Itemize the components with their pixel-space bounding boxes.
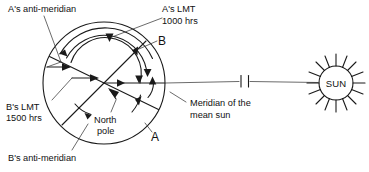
label-a-anti-meridian: A's anti-meridian [8, 4, 76, 14]
label-mean-sun-meridian-line2: mean sun [190, 110, 230, 120]
label-point-a: A [151, 130, 159, 144]
celestial-meridian-diagram: A's anti-meridian A's LMT 1000 hrs B A B… [0, 0, 369, 172]
leader-a-lmt [112, 18, 162, 37]
arc-arrowheads [59, 34, 156, 120]
label-north-pole-line2: pole [97, 126, 114, 136]
sun-ray-line [166, 76, 318, 88]
label-b-lmt-line1: B's LMT [6, 102, 40, 112]
label-a-lmt-line2: 1000 hrs [162, 16, 198, 26]
diagram-canvas: A's anti-meridian A's LMT 1000 hrs B A B… [0, 0, 369, 172]
label-sun: SUN [326, 78, 347, 89]
label-b-lmt-line2: 1500 hrs [6, 113, 42, 123]
leader-north-pole [108, 88, 119, 112]
label-a-lmt-line1: A's LMT [162, 4, 196, 14]
sun-icon: SUN [307, 54, 365, 112]
leader-b-lmt [52, 74, 99, 100]
leader-b-anti-meridian [72, 124, 88, 150]
leader-mean-sun-meridian [170, 92, 186, 102]
label-b-anti-meridian: B's anti-meridian [8, 153, 76, 163]
label-north-pole-line1: North [94, 115, 116, 125]
label-mean-sun-meridian-line1: Meridian of the [190, 98, 251, 108]
label-point-b: B [158, 34, 166, 48]
